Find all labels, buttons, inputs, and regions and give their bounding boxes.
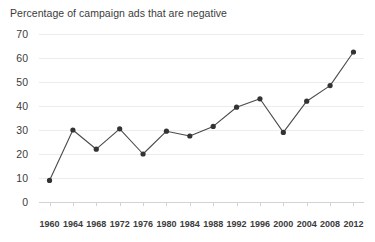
data-point-marker [94,147,99,152]
data-point-marker [351,49,356,54]
line-series [0,0,375,242]
data-point-marker [70,127,75,132]
data-point-marker [234,105,239,110]
data-point-marker [117,126,122,131]
data-point-marker [164,129,169,134]
data-point-marker [281,130,286,135]
chart-figure: Percentage of campaign ads that are nega… [0,0,375,242]
data-point-marker [257,96,262,101]
data-point-marker [304,99,309,104]
series-markers [47,49,356,183]
plot-area: 010203040506070 196019641968197219761980… [0,0,375,242]
data-point-marker [47,178,52,183]
data-point-marker [140,151,145,156]
data-point-marker [187,133,192,138]
data-point-marker [328,83,333,88]
series-line [50,52,354,180]
data-point-marker [211,124,216,129]
